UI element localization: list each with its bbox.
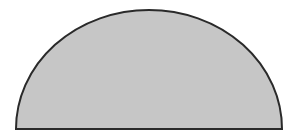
diagram-canvas [0,0,301,137]
semicircle-shape [16,10,282,129]
